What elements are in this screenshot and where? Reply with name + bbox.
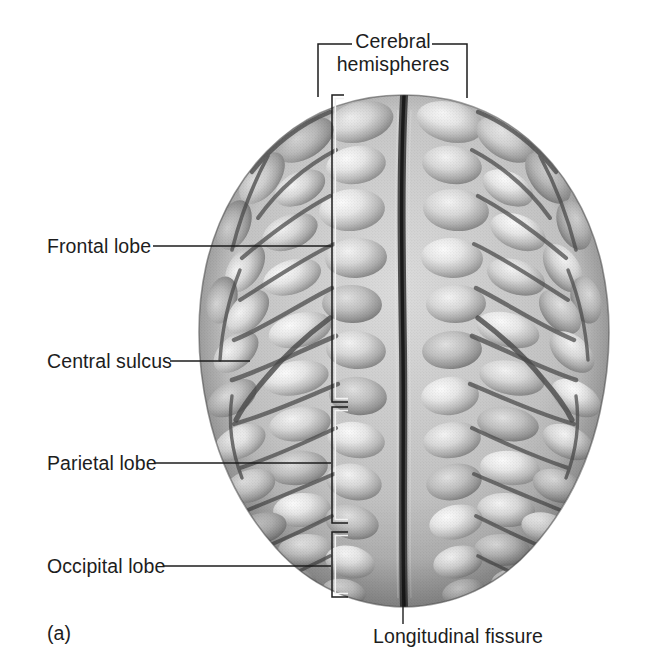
label-parietal-lobe: Parietal lobe xyxy=(47,452,157,475)
label-central-sulcus: Central sulcus xyxy=(47,350,172,373)
label-cerebral-hemispheres-line2: hemispheres xyxy=(318,53,468,76)
label-occipital-lobe: Occipital lobe xyxy=(47,555,165,578)
figure-panel-label: (a) xyxy=(47,622,71,645)
label-cerebral-hemispheres-line1: Cerebral xyxy=(355,30,431,52)
label-frontal-lobe: Frontal lobe xyxy=(47,235,151,258)
label-cerebral-hemispheres: Cerebral hemispheres xyxy=(318,30,468,76)
anatomy-figure: Cerebral hemispheres Frontal lobe Centra… xyxy=(0,0,645,671)
label-longitudinal-fissure: Longitudinal fissure xyxy=(373,625,543,648)
